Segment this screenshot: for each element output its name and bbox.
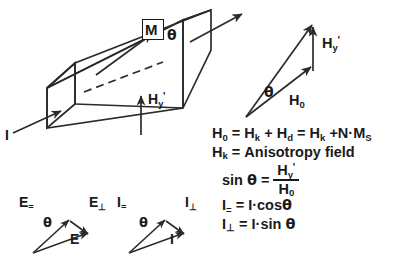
eq-sin-theta-glyph: θ xyxy=(247,172,257,188)
eq-h0-t3-sub: k xyxy=(320,132,325,143)
e-perpendicular-label: E⊥ xyxy=(89,195,106,209)
e-parallel-label: E= xyxy=(19,195,34,209)
e-vector-triangle xyxy=(33,220,88,253)
magnetization-label: M xyxy=(145,22,158,37)
e-parallel-label-sub: = xyxy=(28,202,33,212)
eq-sin-num-prime: ' xyxy=(293,162,295,173)
h0-label-sub: 0 xyxy=(299,99,304,110)
i-triangle-angle-label: θ xyxy=(139,216,148,229)
eq-iperp-eq: = xyxy=(239,216,247,232)
eq-h0-t2-sub: d xyxy=(287,132,293,143)
eq-h0-plus1: + xyxy=(264,125,272,141)
easy-axis-dashed-line xyxy=(84,62,163,92)
eq-ipar-rhs: I·cos xyxy=(248,197,282,213)
eq-h0-eq2: = xyxy=(297,125,305,141)
eq-hk-lhs: H xyxy=(212,144,222,160)
h0-label-base: H xyxy=(289,92,299,108)
eq-h0-eq1: = xyxy=(232,125,240,141)
eq-iperp-theta: θ xyxy=(285,216,295,232)
hy-triangle-label-base: H xyxy=(322,35,332,51)
equation-h0: H0 = Hk + Hd = Hk +N·MS xyxy=(212,126,398,141)
eq-sin-den-base: H xyxy=(279,181,289,197)
slab-inner-bottom-edge xyxy=(75,104,183,108)
i-perpendicular-arrow xyxy=(166,221,184,234)
magnetization-vector xyxy=(96,34,152,75)
e-triangle-angle-label: θ xyxy=(43,216,52,229)
slab-field-label: Hy' xyxy=(148,92,166,106)
i-perpendicular-label-sub: ⊥ xyxy=(189,202,197,212)
eq-iperp-lhs-sub: ⊥ xyxy=(226,222,235,233)
eq-sin-den-sub: 0 xyxy=(289,187,294,198)
e-resultant-label: E xyxy=(70,232,79,246)
eq-h0-lhs: H xyxy=(212,125,222,141)
eq-hk-rhs: Anisotropy field xyxy=(244,144,354,160)
eq-h0-lhs-sub: 0 xyxy=(222,132,227,143)
i-resultant-label: I xyxy=(170,232,174,246)
slab-body xyxy=(47,10,211,128)
slab-right-face xyxy=(183,10,211,108)
hy-triangle-label: Hy' xyxy=(322,36,340,51)
slab-angle-label: θ xyxy=(167,28,177,42)
eq-sin-denominator: H0 xyxy=(276,181,298,197)
equation-block: H0 = Hk + Hd = Hk +N·MS Hk = Anisotropy … xyxy=(212,126,398,235)
eq-ipar-theta: θ xyxy=(282,197,292,213)
i-resultant-arrow xyxy=(129,233,184,253)
eq-h0-t1: H xyxy=(244,125,254,141)
i-parallel-label-sub: = xyxy=(121,202,126,212)
i-parallel-label: I= xyxy=(117,195,126,209)
equation-sin-theta: sin θ =Hy'H0 xyxy=(212,163,398,196)
eq-ipar-eq: = xyxy=(236,197,244,213)
slab-field-label-base: H xyxy=(148,91,158,107)
eq-sin-numerator: Hy' xyxy=(274,163,298,179)
eq-h0-t4: N·M xyxy=(338,125,365,141)
e-parallel-label-base: E xyxy=(19,194,28,210)
eq-iperp-rhs: I·sin xyxy=(252,216,282,232)
h-triangle-angle-label: θ xyxy=(264,85,274,99)
e-resultant-arrow xyxy=(33,233,88,253)
equation-i-perpendicular: I⊥ = I·sin θ xyxy=(212,217,398,232)
hy-triangle-label-prime: ' xyxy=(337,35,339,46)
eq-sin-num-base: H xyxy=(277,162,287,178)
slab-field-label-prime: ' xyxy=(163,91,165,102)
e-perpendicular-label-base: E xyxy=(89,194,98,210)
eq-h0-t3: H xyxy=(310,125,320,141)
eq-sin-lhs: sin xyxy=(222,172,243,188)
figure-canvas: M θ Hy' I θ H0 Hy' E= E⊥ E θ I= I⊥ I θ H… xyxy=(0,0,398,274)
eq-h0-plus2: + xyxy=(329,125,337,141)
eq-hk-lhs-sub: k xyxy=(222,150,227,161)
equation-hk: Hk = Anisotropy field xyxy=(212,145,398,160)
eq-h0-t2: H xyxy=(277,125,287,141)
eq-h0-t4-sub: S xyxy=(365,132,371,143)
i-perpendicular-label: I⊥ xyxy=(185,195,197,209)
equation-i-parallel: I= = I·cosθ xyxy=(212,198,398,213)
eq-hk-eq: = xyxy=(232,144,240,160)
h0-label: H0 xyxy=(289,93,305,108)
slab-left-face xyxy=(47,63,75,128)
slab-top-face xyxy=(47,10,211,88)
i-vector-triangle xyxy=(129,220,184,253)
eq-ipar-lhs-sub: = xyxy=(226,204,232,215)
slab-current-label: I xyxy=(5,128,9,142)
current-out-arrow xyxy=(190,14,242,42)
e-perpendicular-label-sub: ⊥ xyxy=(98,202,106,212)
eq-sin-equals: = xyxy=(261,172,269,188)
eq-sin-fraction: Hy'H0 xyxy=(273,163,299,196)
eq-h0-t1-sub: k xyxy=(255,132,260,143)
